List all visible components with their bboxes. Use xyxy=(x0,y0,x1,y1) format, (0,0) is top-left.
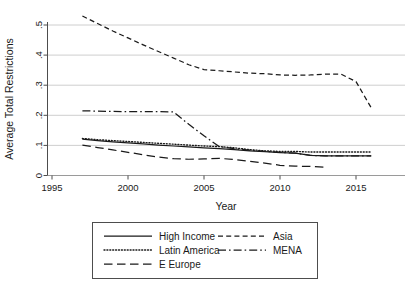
y-tick-label: .1 xyxy=(33,141,44,149)
y-tick-label: .4 xyxy=(33,51,44,59)
chart-background xyxy=(0,0,410,286)
y-tick-label: .2 xyxy=(33,111,44,119)
y-tick-label: 0 xyxy=(33,173,44,178)
x-tick-label: 2000 xyxy=(117,182,138,193)
chart-figure: 0.1.2.3.4.5 19952000200520102015 Average… xyxy=(0,0,410,286)
legend-label-e-europe: E Europe xyxy=(159,259,201,270)
y-tick-label: .5 xyxy=(33,21,44,29)
y-tick-label: .3 xyxy=(33,81,44,89)
line-chart: 0.1.2.3.4.5 19952000200520102015 Average… xyxy=(0,0,410,286)
x-axis-title: Year xyxy=(215,200,237,212)
y-axis-title: Average Total Restrictions xyxy=(3,38,15,160)
legend-label-mena: MENA xyxy=(273,245,302,256)
legend-label-high-income: High Income xyxy=(159,231,216,242)
legend-label-latin-america: Latin America xyxy=(159,245,220,256)
legend-label-asia: Asia xyxy=(273,231,293,242)
x-tick-label: 1995 xyxy=(41,182,62,193)
x-tick-label: 2005 xyxy=(193,182,214,193)
x-tick-label: 2015 xyxy=(345,182,366,193)
x-tick-label: 2010 xyxy=(269,182,290,193)
